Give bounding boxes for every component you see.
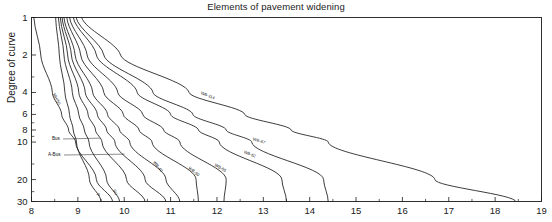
y-tick-label: 2 [6, 49, 28, 60]
y-tick-label: 10 [6, 136, 28, 147]
callout-label-abus: A-Bus [48, 152, 61, 157]
chart-container: Elements of pavement widening Degree of … [0, 0, 552, 222]
x-tick-label: 9 [67, 205, 89, 216]
curves-group [34, 18, 516, 202]
y-tick-label: 20 [6, 174, 28, 185]
leader-lines-group [63, 138, 125, 155]
x-tick-label: 17 [438, 205, 460, 216]
axes-group [32, 18, 542, 202]
y-tick-label: 4 [6, 86, 28, 97]
curve-wb-55 [70, 18, 227, 202]
x-tick-label: 10 [113, 205, 135, 216]
callout-label-bus: Bus [52, 136, 60, 141]
plot-canvas [0, 0, 552, 222]
x-tick-label: 8 [21, 205, 43, 216]
y-tick-label: 1 [6, 12, 28, 23]
x-tick-label: 13 [252, 205, 274, 216]
curve-wb-40 [64, 18, 180, 202]
x-tick-label: 19 [531, 205, 552, 216]
y-tick-label: 6 [6, 108, 28, 119]
x-tick-label: 12 [206, 205, 228, 216]
y-tick-label: 8 [6, 124, 28, 135]
x-tick-label: 11 [160, 205, 182, 216]
curve-wb-67 [76, 18, 328, 202]
x-tick-label: 15 [345, 205, 367, 216]
leader-line-bus [63, 138, 100, 139]
x-tick-label: 16 [391, 205, 413, 216]
x-tick-label: 18 [484, 205, 506, 216]
curve-su [58, 18, 119, 202]
curve-wb-114 [82, 18, 516, 202]
x-tick-label: 14 [299, 205, 321, 216]
